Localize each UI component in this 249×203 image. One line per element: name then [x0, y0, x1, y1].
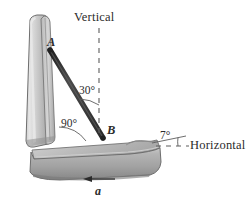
label-acceleration: a — [95, 185, 101, 197]
label-horizontal: Horizontal — [190, 139, 245, 152]
pin-joint-b — [100, 135, 105, 140]
label-angle-90: 90° — [61, 118, 77, 130]
seat-mechanics-figure: Vertical Horizontal A B 30° 90° 7° a — [0, 0, 249, 203]
figure-drawing — [0, 0, 249, 203]
label-vertical: Vertical — [74, 11, 114, 24]
label-angle-30: 30° — [79, 85, 95, 97]
label-point-a: A — [47, 36, 55, 49]
seat-cushion — [30, 140, 161, 181]
label-angle-7: 7° — [160, 130, 170, 142]
label-point-b: B — [107, 124, 115, 137]
